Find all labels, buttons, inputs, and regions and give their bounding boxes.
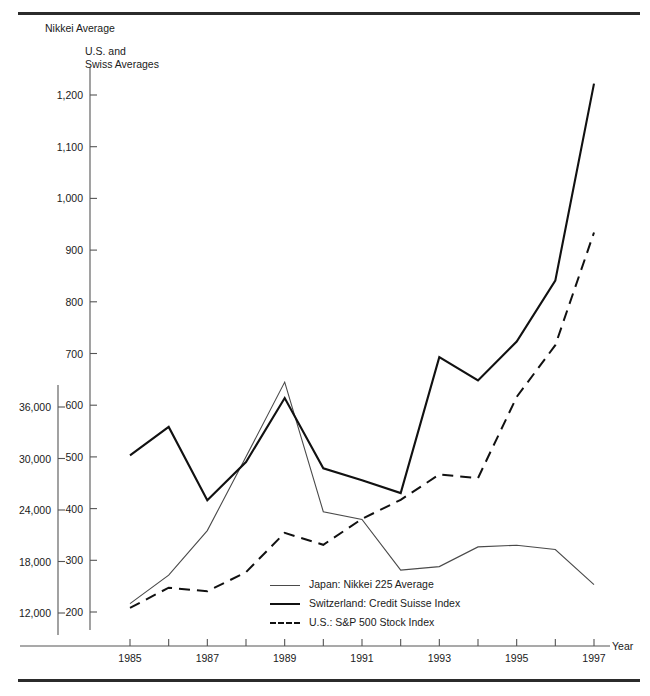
x-tick-label: 1991	[350, 652, 374, 664]
left-tick-label: 30,000	[19, 453, 51, 465]
x-tick-label: 1987	[196, 652, 220, 664]
legend-key-japan-icon	[270, 580, 300, 590]
right-axis: 2003004005006007008009001,0001,1001,200	[57, 67, 97, 630]
right-tick-label: 400	[65, 503, 83, 515]
right-tick-label: 700	[65, 348, 83, 360]
series-line	[130, 233, 594, 608]
right-tick-label: 1,200	[57, 89, 83, 101]
right-tick-label: 300	[65, 554, 83, 566]
x-tick-label: 1989	[273, 652, 297, 664]
x-tick-label: 1997	[582, 652, 606, 664]
legend-label-us: U.S.: S&P 500 Stock Index	[309, 613, 434, 632]
left-axis: 12,00018,00024,00030,00036,000	[19, 385, 65, 635]
x-tick-label: 1995	[505, 652, 529, 664]
x-tick-label: 1993	[428, 652, 452, 664]
series-lines	[130, 84, 594, 608]
right-tick-label: 600	[65, 399, 83, 411]
right-tick-label: 1,000	[57, 192, 83, 204]
right-tick-label: 500	[65, 451, 83, 463]
right-tick-label: 800	[65, 296, 83, 308]
legend-key-swiss-icon	[270, 599, 300, 609]
right-tick-label: 900	[65, 244, 83, 256]
left-tick-label: 12,000	[19, 607, 51, 619]
x-axis: 1985198719891991199319951997	[20, 639, 610, 664]
left-tick-label: 18,000	[19, 556, 51, 568]
legend-item-japan: Japan: Nikkei 225 Average	[270, 575, 460, 594]
x-tick-label: 1985	[118, 652, 142, 664]
legend-label-japan: Japan: Nikkei 225 Average	[309, 575, 434, 594]
left-tick-label: 24,000	[19, 504, 51, 516]
left-tick-label: 36,000	[19, 401, 51, 413]
series-line	[130, 382, 594, 603]
legend-label-swiss: Switzerland: Credit Suisse Index	[309, 594, 460, 613]
right-tick-label: 200	[65, 606, 83, 618]
chart-legend: Japan: Nikkei 225 Average Switzerland: C…	[270, 575, 460, 632]
legend-item-us: U.S.: S&P 500 Stock Index	[270, 613, 460, 632]
legend-key-us-icon	[270, 618, 300, 628]
series-line	[130, 84, 594, 501]
right-tick-label: 1,100	[57, 141, 83, 153]
legend-item-swiss: Switzerland: Credit Suisse Index	[270, 594, 460, 613]
